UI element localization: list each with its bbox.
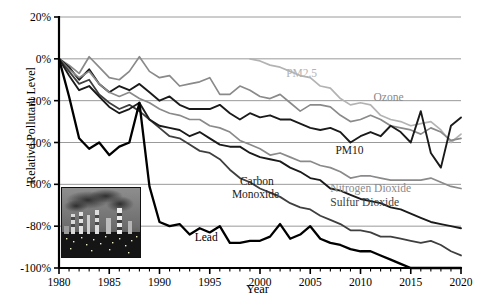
series-label-carbon-monoxide: CarbonMonoxide (232, 175, 279, 200)
pollutant-trend-chart: 198019851990199520002005201020152020 20%… (0, 0, 481, 305)
x-axis-title-text: Year (246, 282, 269, 296)
y-tick-label: -80% (26, 220, 51, 232)
y-tick-label: -100% (20, 262, 51, 274)
chart-svg: 198019851990199520002005201020152020 20%… (0, 0, 481, 305)
photo-illustration (62, 188, 140, 257)
series-line-nitrogen-dioxide (59, 59, 461, 189)
series-label-nitrogen-dioxide: Nitrogen Dioxide (330, 182, 411, 195)
series-label-pm2-5: PM2.5 (286, 67, 317, 79)
series-label-line: Carbon (240, 175, 274, 187)
x-axis-title: Year (0, 282, 481, 297)
series-label-pm10: PM10 (335, 144, 363, 156)
y-axis-title: Relative Pollutant Level (24, 46, 39, 206)
industrial-smokestacks-photo (61, 187, 141, 258)
series-label-lead: Lead (195, 231, 218, 243)
y-tick-label: 20% (30, 11, 52, 23)
series-label-ozone: Ozone (374, 91, 404, 103)
series-label-line: Monoxide (232, 188, 279, 200)
series-labels-group: PM2.5OzonePM10Nitrogen DioxideSulfur Dio… (195, 67, 411, 243)
series-label-sulfur-dioxide: Sulfur Dioxide (330, 196, 399, 208)
